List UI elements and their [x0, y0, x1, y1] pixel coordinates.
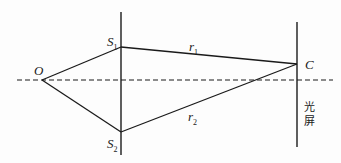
label-c-text: C [305, 57, 314, 72]
label-s2-sub: 2 [114, 145, 118, 154]
diagram-canvas: O S1 S2 C r1 r2 光 屏 [0, 0, 341, 163]
label-o: O [34, 64, 43, 77]
label-screen-char2: 屏 [304, 115, 316, 129]
label-r1-sub: 1 [194, 48, 198, 57]
label-r2: r2 [188, 110, 197, 127]
diagram-lines [0, 0, 341, 163]
label-r2-sub: 2 [193, 118, 197, 127]
ray-r1 [121, 47, 297, 64]
label-s1-sub: 1 [114, 43, 118, 52]
ray-o-s2 [42, 80, 121, 132]
label-s1: S1 [107, 35, 118, 52]
label-c: C [305, 58, 314, 71]
label-screen-char1: 光 [304, 101, 316, 115]
label-o-text: O [34, 63, 43, 78]
ray-r2 [121, 64, 297, 132]
ray-o-s1 [42, 47, 121, 80]
label-r1: r1 [189, 40, 198, 57]
label-screen: 光 屏 [304, 101, 316, 129]
label-s2: S2 [107, 137, 118, 154]
